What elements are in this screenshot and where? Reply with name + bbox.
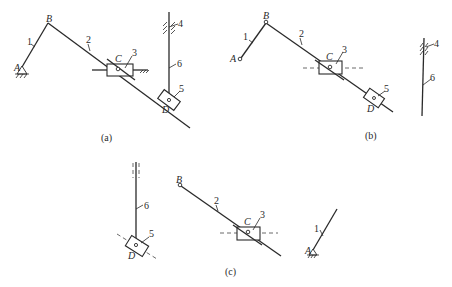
point-d-label: D (127, 250, 136, 261)
point-d-label: D (161, 104, 170, 115)
member-1-label: 1 (27, 36, 32, 47)
member-2-label: 2 (86, 34, 91, 45)
pin-d (167, 98, 170, 101)
point-c-label: C (244, 216, 251, 227)
point-a-label: A (304, 245, 312, 256)
caption-b: (b) (365, 130, 377, 142)
panel-c: B C D A 1 2 3 5 6 (c) (117, 162, 337, 278)
caption-c: (c) (225, 266, 236, 278)
point-c-label: C (115, 53, 122, 64)
point-c-label: C (326, 51, 333, 62)
member-3-label: 3 (260, 209, 265, 220)
point-b-label: B (46, 13, 52, 24)
member-1-label: 1 (243, 31, 248, 42)
pin-d (373, 97, 376, 100)
member-5-label: 5 (384, 83, 389, 94)
member-1-label: 1 (314, 223, 319, 234)
panel-b: A B C D 1 2 3 4 5 6 (b) (229, 10, 439, 142)
point-b-label: B (263, 10, 269, 21)
point-a-label: A (229, 53, 237, 64)
member-2-label: 2 (299, 28, 304, 39)
member-3-label: 3 (342, 44, 347, 55)
member-2-label: 2 (214, 195, 219, 206)
point-d-label: D (366, 103, 375, 114)
member-6-label: 6 (430, 72, 435, 83)
pin-d (134, 243, 137, 246)
point-a-label: A (13, 62, 21, 73)
caption-a: (a) (101, 132, 112, 144)
link-2 (181, 186, 281, 256)
member-6-label: 6 (144, 200, 149, 211)
member-3-label: 3 (132, 47, 137, 58)
panel-a: A B C D 1 2 3 4 6 5 (a) (13, 12, 190, 144)
member-4-label: 4 (178, 18, 183, 29)
pin-a (238, 57, 242, 61)
member-5-label: 5 (149, 228, 154, 239)
member-4-label: 4 (434, 38, 439, 49)
pin-c (328, 65, 332, 69)
rod-6 (422, 38, 424, 116)
pin-c (116, 67, 120, 71)
member-5-label: 5 (179, 83, 184, 94)
link-1 (22, 23, 48, 67)
pin-c (246, 230, 250, 234)
member-6-label: 6 (177, 58, 182, 69)
mechanism-diagram: A B C D 1 2 3 4 6 5 (a) (0, 0, 452, 287)
point-b-label: B (176, 174, 182, 185)
